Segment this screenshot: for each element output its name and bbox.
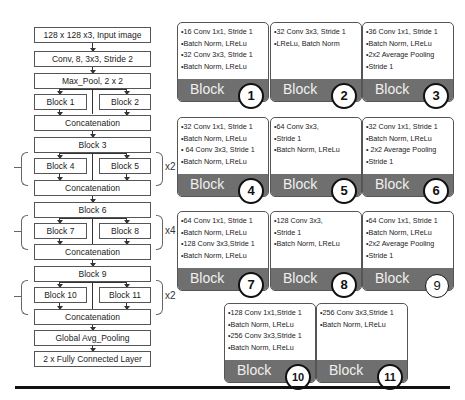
block-card-1: •16 Conv 1x1, Stride 1 •Batch Norm, LReL… (177, 22, 269, 102)
horizontal-rule (15, 386, 450, 389)
block-line: •Batch Norm, LReLu (320, 319, 405, 331)
block-line: •Batch Norm, LReLu (181, 227, 266, 239)
block-7-box: Block 7 (34, 223, 87, 239)
block-number-badge: 3 (423, 83, 449, 109)
block-line: •64 Conv 1x1, Stride 1 (366, 215, 451, 227)
block-number-badge: 9 (425, 274, 449, 298)
block-line: •128 Conv 3x3, (274, 215, 359, 227)
maxpool-box: Max_Pool, 2 x 2 (34, 73, 151, 89)
block-9-box: Block 9 (34, 266, 151, 282)
block-number-badge: 2 (331, 83, 357, 109)
concatenation-box: Concatenation (34, 115, 151, 131)
block-label: Block (237, 362, 271, 378)
block-card-8: •128 Conv 3x3, •Stride 1 •Batch Norm, LR… (270, 211, 362, 291)
block-line: • 64 Conv 3x3, Stride 1 (181, 144, 266, 156)
block-label: Block (283, 270, 317, 286)
block-line: •Batch Norm, LReLu (274, 238, 359, 250)
block-label: Block (283, 81, 317, 97)
block-line: •2x2 Average Pooling (366, 238, 451, 250)
block-line: •Batch Norm, LReLu (228, 342, 313, 354)
block-label: Block (375, 270, 409, 286)
brace-tick (14, 296, 22, 297)
block-card-9: •64 Conv 1x1, Stride 1 •Batch Norm, LReL… (362, 211, 454, 291)
block-line: •Stride 1 (274, 133, 359, 145)
brace-tick (14, 231, 22, 232)
block-line: •32 Conv 1x1, Stride 1 (366, 121, 451, 133)
block-line: •Batch Norm, LReLu (181, 38, 266, 50)
block-number-badge: 6 (423, 178, 449, 204)
block-line: •Batch Norm, LReLu (366, 133, 451, 145)
block-card-3: •36 Conv 1x1, Stride 1 •Batch Norm, LReL… (362, 22, 454, 102)
block-number-badge: 1 (238, 83, 264, 109)
concatenation-box: Concatenation (34, 180, 151, 196)
block-label: Block (283, 176, 317, 192)
skip-line (92, 89, 93, 114)
block-line: •32 Conv 3x3, Stride 1 (274, 26, 359, 38)
block-line: •32 Conv 3x3, Stride 1 (181, 49, 266, 61)
branch-line (59, 282, 127, 283)
block-number-badge: 5 (331, 178, 357, 204)
block-line: •Batch Norm, LReLu (366, 227, 451, 239)
block-line: •Batch Norm, LReLu (228, 319, 313, 331)
block-line: •2x2 Average Pooling (366, 49, 451, 61)
left-brace (21, 215, 28, 250)
block-11-box: Block 11 (99, 287, 151, 303)
block-4-box: Block 4 (34, 158, 87, 174)
right-brace (156, 152, 163, 186)
block-8-box: Block 8 (99, 223, 151, 239)
right-brace (156, 280, 163, 315)
block-label: Block (190, 81, 224, 97)
block-line: •64 Conv 3x3, (274, 121, 359, 133)
fully-connected-box: 2 x Fully Connected Layer (34, 351, 151, 367)
block-line: •256 Conv 3x3,Stride 1 (228, 330, 313, 342)
brace-tick (14, 167, 22, 168)
skip-line (92, 282, 93, 309)
conv-box: Conv, 8, 3x3, Stride 2 (34, 51, 151, 67)
block-5-box: Block 5 (99, 158, 151, 174)
skip-line (92, 218, 93, 244)
block-2-box: Block 2 (99, 94, 151, 110)
block-line: •128 Conv 3x3,Stride 1 (181, 238, 266, 250)
block-line: •128 Conv 1x1,Stride 1 (228, 307, 313, 319)
branch-line (59, 218, 127, 219)
block-line: •Stride 1 (366, 61, 451, 73)
block-line: •Batch Norm, LReLu (366, 38, 451, 50)
branch-line (59, 153, 127, 154)
block-line: •32 Conv 1x1, Stride 1 (181, 121, 266, 133)
block-label: Block (329, 362, 363, 378)
block-label: Block (375, 81, 409, 97)
block-card-11: •256 Conv 3x3,Stride 1 •Batch Norm, LReL… (316, 303, 408, 383)
block-3-box: Block 3 (34, 137, 151, 153)
block-line: •Batch Norm, LReLu (181, 61, 266, 73)
block-card-10: •128 Conv 1x1,Stride 1 •Batch Norm, LReL… (224, 303, 316, 383)
block-card-4: •32 Conv 1x1, Stride 1 •Batch Norm, LReL… (177, 117, 269, 197)
block-line: •64 Conv 1x1, Stride 1 (181, 215, 266, 227)
block-label: Block (375, 176, 409, 192)
block-label: Block (190, 270, 224, 286)
block-number-badge: 7 (238, 272, 264, 298)
block-line: •Batch Norm, LReLu (181, 156, 266, 168)
repeat-x4-label: x4 (165, 225, 176, 236)
block-line: •Batch Norm, LReLu (181, 133, 266, 145)
block-card-2: •32 Conv 3x3, Stride 1 •LReLu, Batch Nor… (270, 22, 362, 102)
global-avg-pooling-box: Global Avg_Pooling (34, 330, 151, 346)
arrow (92, 43, 93, 51)
concatenation-box: Concatenation (34, 309, 151, 325)
block-card-6: •32 Conv 1x1, Stride 1 •Batch Norm, LReL… (362, 117, 454, 197)
repeat-x2-label: x2 (165, 161, 176, 172)
block-line: •Stride 1 (366, 250, 451, 262)
block-6-box: Block 6 (34, 202, 151, 218)
left-brace (21, 152, 28, 186)
block-line: •Batch Norm, LReLu (181, 250, 266, 262)
block-line: •36 Conv 1x1, Stride 1 (366, 26, 451, 38)
left-brace (21, 280, 28, 315)
block-number-badge: 4 (238, 178, 264, 204)
concatenation-box: Concatenation (34, 244, 151, 260)
block-line: •Batch Norm, LReLu (274, 144, 359, 156)
input-image-box: 128 x 128 x3, Input image (34, 27, 151, 43)
block-line: •16 Conv 1x1, Stride 1 (181, 26, 266, 38)
block-card-5: •64 Conv 3x3, •Stride 1 •Batch Norm, LRe… (270, 117, 362, 197)
right-brace (156, 215, 163, 250)
block-line: •256 Conv 3x3,Stride 1 (320, 307, 405, 319)
block-1-box: Block 1 (34, 94, 87, 110)
